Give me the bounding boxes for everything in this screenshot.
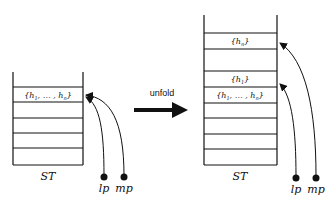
cell-after-0: {hn} — [231, 37, 250, 47]
cell-after-2: {h1} — [231, 75, 250, 85]
mp-pointer-before — [86, 95, 124, 176]
lp-label-after: lp — [291, 183, 302, 196]
stack-before — [13, 72, 83, 165]
mp-label-after: mp — [307, 183, 324, 196]
cell-before-0: {h1, … , hn} — [24, 91, 72, 101]
lp-pointer-before — [86, 97, 104, 176]
lp-dot-after — [293, 175, 300, 182]
lp-pointer-after — [280, 84, 296, 176]
mp-label-before: mp — [115, 182, 132, 195]
cell-after-3: {h1, … , hn} — [216, 91, 264, 101]
mp-dot-after — [313, 175, 320, 182]
unfold-label: unfold — [150, 88, 175, 98]
mp-dot-before — [121, 174, 128, 181]
unfold-arrow-icon — [134, 102, 188, 118]
lp-dot-before — [101, 174, 108, 181]
stack-label-after: ST — [233, 170, 250, 183]
lp-label-before: lp — [99, 182, 110, 195]
unfold-diagram: {h1, … , hn} ST lp mp unfold {hn} {h1} {… — [0, 0, 336, 200]
stack-label-before: ST — [41, 170, 58, 183]
mp-pointer-after — [280, 43, 316, 176]
